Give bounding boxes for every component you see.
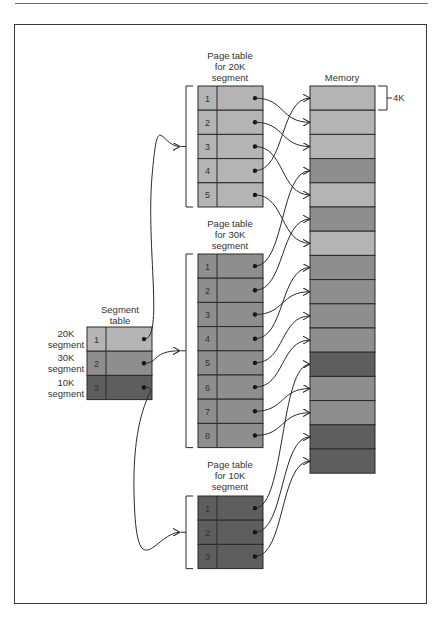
segment-table-row-index: 2 xyxy=(94,359,99,369)
pt30-title-1: Page table xyxy=(207,218,252,229)
memory-block xyxy=(310,352,375,376)
memory-block xyxy=(310,280,375,304)
block-size-label: 4K xyxy=(393,92,405,103)
pt30-row-index: 7 xyxy=(205,407,210,417)
pt10-title-3: segment xyxy=(212,481,249,492)
memory-block xyxy=(310,231,375,255)
memory-block xyxy=(310,328,375,352)
segment-table-row-index: 3 xyxy=(94,383,99,393)
pt20-row-index: 5 xyxy=(205,190,210,200)
memory-block xyxy=(310,304,375,328)
segment-label-size: 20K xyxy=(58,328,76,339)
pt10-bracket xyxy=(181,496,193,569)
pt10-row-index: 1 xyxy=(205,504,210,514)
page-tables: 1234512345678123 xyxy=(181,86,263,569)
pt20-bracket xyxy=(181,86,193,207)
memory-block xyxy=(310,425,375,449)
memory-column xyxy=(310,86,375,473)
segment-table-row-index: 1 xyxy=(94,335,99,345)
segment-table: 12320Ksegment30Ksegment10Ksegment xyxy=(48,327,152,400)
pt30-row-index: 1 xyxy=(205,262,210,272)
memory-block xyxy=(310,449,375,473)
segment-label-size: 30K xyxy=(58,352,76,363)
memory-block xyxy=(310,183,375,207)
pt10-title-2: for 10K xyxy=(215,470,246,481)
pt30-row-index: 8 xyxy=(205,431,210,441)
pt20-row-index: 4 xyxy=(205,166,210,176)
pt30-title-2: for 30K xyxy=(215,229,246,240)
pt30-row-index: 4 xyxy=(205,334,210,344)
pt20-row-index: 1 xyxy=(205,94,210,104)
segment-to-page-table-arrow xyxy=(144,135,180,339)
memory-block xyxy=(310,207,375,231)
pt30-bracket xyxy=(181,254,193,448)
pt10-title-1: Page table xyxy=(207,459,252,470)
memory-title: Memory xyxy=(325,72,360,83)
segment-table-title-2: table xyxy=(110,315,131,326)
pt30-row-index: 5 xyxy=(205,358,210,368)
pt10-row-index: 3 xyxy=(205,552,210,562)
pt20-row-index: 3 xyxy=(205,142,210,152)
pt30-row-index: 3 xyxy=(205,310,210,320)
segment-label-word: segment xyxy=(48,388,85,399)
pt30-row-index: 2 xyxy=(205,286,210,296)
pt20-row-index: 2 xyxy=(205,118,210,128)
memory-block xyxy=(310,401,375,425)
pt30-title-3: segment xyxy=(212,240,249,251)
pt20-title-1: Page table xyxy=(207,50,252,61)
memory-block xyxy=(310,110,375,134)
segment-label-word: segment xyxy=(48,363,85,374)
segmentation-paging-diagram: Segment table 12320Ksegment30Ksegment10K… xyxy=(0,0,447,636)
segment-table-title-1: Segment xyxy=(101,304,139,315)
pt10-row-index: 2 xyxy=(205,528,210,538)
pt20-title-3: segment xyxy=(212,72,249,83)
segment-label-word: segment xyxy=(48,339,85,350)
memory-block xyxy=(310,159,375,183)
block-size-bracket xyxy=(378,86,392,110)
pt20-title-2: for 20K xyxy=(215,61,246,72)
memory-block xyxy=(310,255,375,279)
memory-block xyxy=(310,86,375,110)
memory-block xyxy=(310,376,375,400)
memory-block xyxy=(310,134,375,158)
segment-label-size: 10K xyxy=(58,377,76,388)
segment-to-page-table-arrow xyxy=(134,388,180,551)
pt30-row-index: 6 xyxy=(205,383,210,393)
